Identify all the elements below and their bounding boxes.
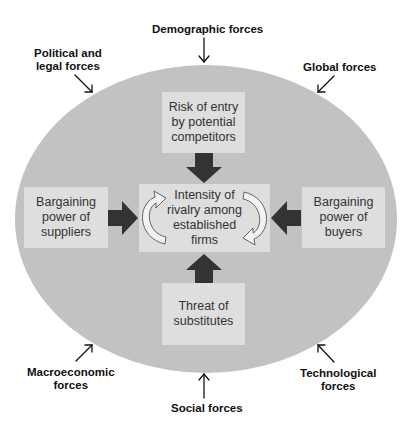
label-line: legal forces bbox=[34, 60, 102, 73]
rivalry-cycle-right-icon bbox=[243, 192, 267, 245]
arrow-macroeconomic-icon bbox=[76, 345, 92, 361]
arrow-demographic-icon bbox=[199, 38, 209, 62]
label-macroeconomic-forces: Macroeconomic forces bbox=[27, 366, 115, 392]
arrow-social-icon bbox=[199, 374, 209, 398]
label-social-forces: Social forces bbox=[171, 402, 243, 415]
block-arrow-right-icon bbox=[108, 201, 138, 235]
label-line: Macroeconomic bbox=[27, 366, 115, 379]
label-line: forces bbox=[300, 380, 376, 393]
arrow-global-icon bbox=[318, 76, 334, 92]
label-global-forces: Global forces bbox=[303, 61, 377, 74]
arrow-political-icon bbox=[75, 75, 92, 92]
block-arrow-left-icon bbox=[271, 201, 301, 235]
label-line: Political and bbox=[34, 47, 102, 60]
label-demographic-forces: Demographic forces bbox=[152, 23, 263, 36]
rivalry-cycle-left-icon bbox=[142, 191, 166, 244]
block-arrow-up-icon bbox=[186, 254, 222, 283]
label-line: forces bbox=[27, 379, 115, 392]
label-line: Technological bbox=[300, 367, 376, 380]
arrow-technological-icon bbox=[318, 345, 334, 362]
label-technological-forces: Technological forces bbox=[300, 367, 376, 393]
block-arrow-down-icon bbox=[186, 153, 222, 183]
label-political-legal-forces: Political and legal forces bbox=[34, 47, 102, 73]
